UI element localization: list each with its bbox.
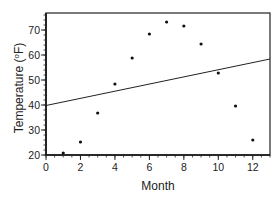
data-point	[96, 111, 99, 114]
data-point	[182, 24, 185, 27]
data-point	[165, 20, 168, 23]
y-tick-label: 60	[28, 49, 40, 61]
data-point	[113, 82, 116, 85]
trend-line	[46, 59, 270, 106]
y-tick-label: 50	[28, 74, 40, 86]
data-point	[131, 56, 134, 59]
y-tick-label: 20	[28, 149, 40, 161]
fit-line-segment	[46, 59, 270, 106]
data-point	[148, 32, 151, 35]
data-point	[217, 71, 220, 74]
y-tick-labels: 203040506070	[28, 24, 40, 161]
data-points	[62, 20, 255, 154]
x-tick-label: 12	[247, 161, 259, 173]
plot-border	[46, 13, 270, 155]
x-tick-label: 8	[181, 161, 187, 173]
y-tick-label: 70	[28, 24, 40, 36]
data-point	[62, 151, 65, 154]
y-tick-label: 40	[28, 99, 40, 111]
y-axis-label: Temperature (oF)	[12, 43, 26, 133]
x-tick-labels: 024681012	[43, 161, 259, 173]
x-tick-label: 0	[43, 161, 49, 173]
data-point	[234, 104, 237, 107]
plot-frame	[46, 13, 270, 155]
x-tick-label: 10	[212, 161, 224, 173]
x-tick-label: 6	[146, 161, 152, 173]
data-point	[199, 42, 202, 45]
x-tick-label: 2	[78, 161, 84, 173]
data-point	[251, 138, 254, 141]
y-axis-label-unit: F)	[12, 43, 26, 54]
x-axis-label: Month	[141, 179, 174, 193]
y-axis-label-main: Temperature (	[12, 59, 26, 134]
temperature-chart: 024681012 203040506070 Month Temperature…	[0, 0, 280, 201]
data-point	[79, 140, 82, 143]
minor-ticks	[44, 15, 271, 158]
major-ticks	[41, 30, 253, 160]
x-tick-label: 4	[112, 161, 118, 173]
y-tick-label: 30	[28, 124, 40, 136]
